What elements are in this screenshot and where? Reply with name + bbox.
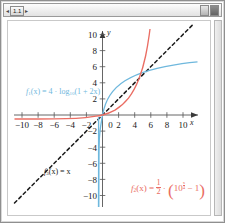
svg-text:0: 0	[108, 120, 113, 130]
svg-text:2: 2	[116, 120, 121, 130]
f1-tail: (1 + 2x)	[74, 87, 100, 96]
f1-arg: (x) = 4 · log	[31, 87, 70, 96]
tab-previous-arrow-icon[interactable]: ◂	[6, 8, 9, 14]
f2-base: 10	[174, 183, 183, 193]
y-axis-label: y	[106, 28, 111, 37]
graph-application-window: ◂ 1.1 ▸	[0, 0, 225, 223]
curve-f3-identity-line	[15, 25, 194, 204]
f3-arg: (x) = x	[49, 167, 71, 176]
svg-text:−4: −4	[87, 143, 97, 153]
svg-text:8: 8	[93, 46, 98, 56]
svg-text:−10: −10	[15, 120, 30, 130]
graph-plot-area[interactable]: y x −10 −8 −6 −4 −2 0 2 4 6 8 10 10 8 6	[7, 20, 211, 216]
svg-text:10: 10	[88, 30, 98, 40]
svg-text:−10: −10	[83, 191, 98, 201]
title-bar: ◂ 1.1 ▸	[3, 3, 222, 17]
svg-text:6: 6	[93, 62, 98, 72]
f2-right-paren: )	[199, 181, 205, 200]
menu-icon[interactable]	[210, 5, 219, 16]
x-axis-label: x	[189, 118, 194, 127]
svg-text:8: 8	[165, 120, 170, 130]
page-tab-group[interactable]: ◂ 1.1 ▸	[6, 5, 28, 16]
curve-f2-exponential	[15, 29, 151, 119]
titlebar-status-icons	[200, 5, 219, 16]
svg-text:−2: −2	[87, 126, 97, 136]
svg-text:6: 6	[149, 120, 154, 130]
svg-text:−6: −6	[87, 159, 97, 169]
f2-arg: (x) =	[136, 183, 156, 193]
function-label-f2[interactable]: f2(x) = 12 · (10x4 − 1)	[131, 179, 205, 197]
f2-minus-one: − 1	[185, 183, 199, 193]
svg-text:−6: −6	[49, 120, 59, 130]
svg-text:4: 4	[132, 120, 137, 130]
vertical-scrollbar[interactable]	[214, 20, 222, 216]
page-tab-label[interactable]: 1.1	[10, 6, 24, 16]
battery-icon	[200, 5, 209, 16]
svg-text:−8: −8	[87, 175, 97, 185]
svg-text:−8: −8	[33, 120, 43, 130]
svg-text:10: 10	[179, 120, 189, 130]
svg-text:−4: −4	[66, 120, 76, 130]
f2-dot: ·	[161, 183, 169, 193]
tab-next-arrow-icon[interactable]: ▸	[25, 8, 28, 14]
function-label-f3[interactable]: f3(x) = x	[44, 167, 71, 176]
function-label-f1[interactable]: f1(x) = 4 · log10(1 + 2x)	[26, 87, 100, 96]
